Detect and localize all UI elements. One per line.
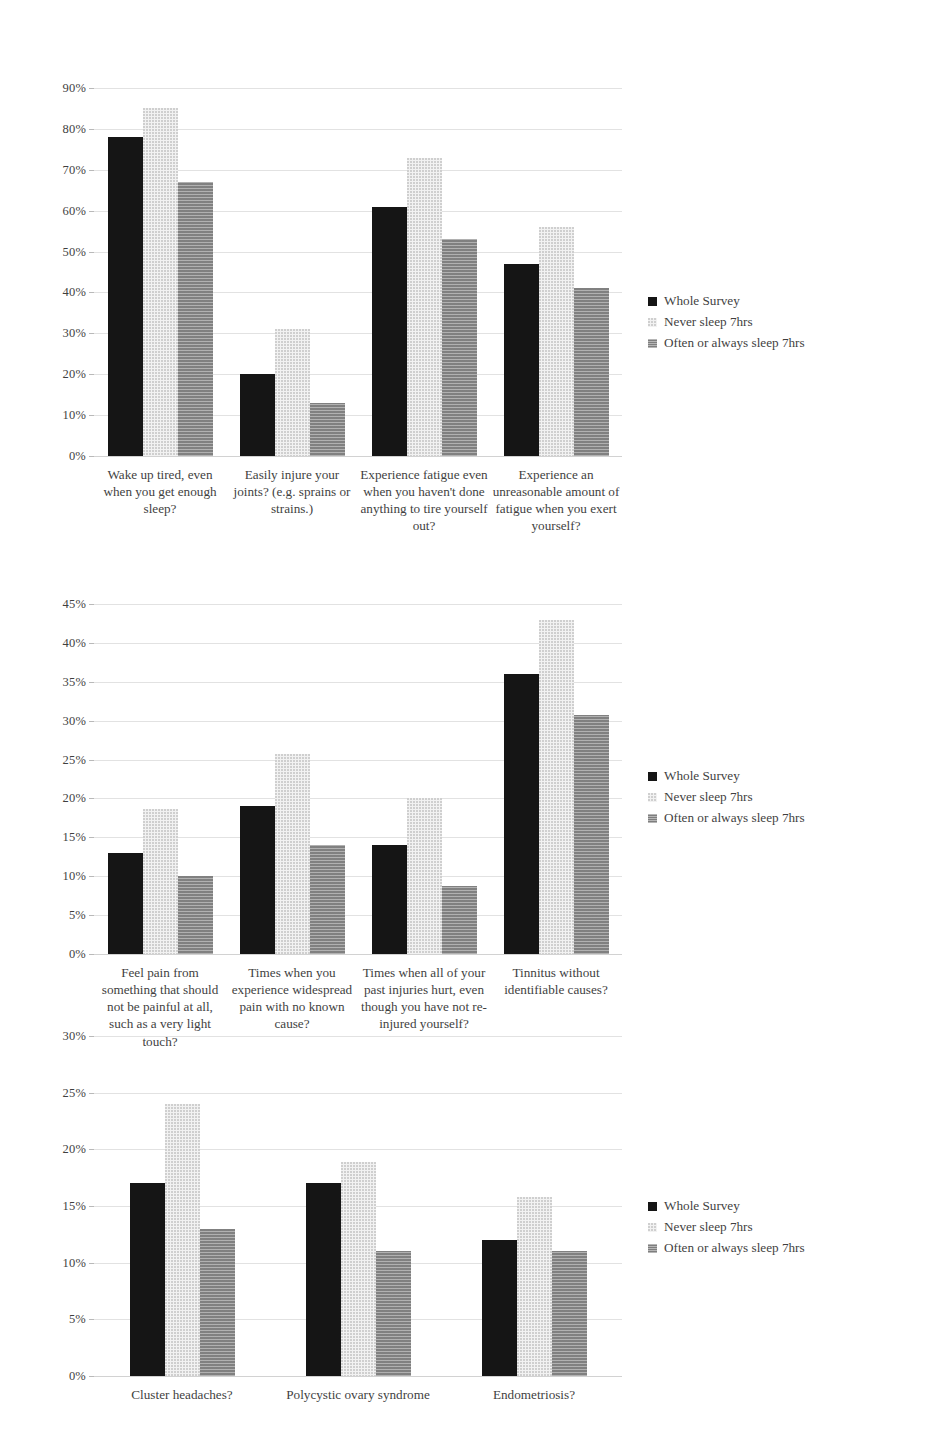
y-tick-label: 45% <box>62 597 86 612</box>
y-tick-label: 10% <box>62 408 86 423</box>
chart-block-1: 0%10%20%30%40%50%60%70%80%90% Wake up ti… <box>0 0 925 590</box>
y-tick-label: 40% <box>62 285 86 300</box>
x-category-label: Endometriosis? <box>446 1386 622 1403</box>
legend-swatch-icon <box>648 297 657 306</box>
bar-1[interactable] <box>539 227 574 456</box>
bar-group <box>270 1036 446 1376</box>
bar-0[interactable] <box>504 264 539 456</box>
bar-2[interactable] <box>178 876 213 954</box>
legend-label: Never sleep 7hrs <box>664 1219 753 1235</box>
bar-0[interactable] <box>372 845 407 954</box>
y-tick-label: 5% <box>69 908 86 923</box>
legend-swatch-icon <box>648 339 657 348</box>
bar-0[interactable] <box>240 374 275 456</box>
x-axis-labels-1: Wake up tired, even when you get enough … <box>94 466 622 535</box>
bar-2[interactable] <box>376 1251 411 1376</box>
y-tick-label: 80% <box>62 121 86 136</box>
bar-group <box>358 604 490 954</box>
legend-label: Never sleep 7hrs <box>664 314 753 330</box>
chart-block-2: 0%5%10%15%20%25%30%35%40%45% Feel pain f… <box>0 590 925 1030</box>
bar-2[interactable] <box>200 1229 235 1376</box>
legend-entry[interactable]: Often or always sleep 7hrs <box>648 1240 805 1256</box>
y-tick-label: 30% <box>62 1029 86 1044</box>
legend-entry[interactable]: Whole Survey <box>648 768 805 784</box>
bar-group <box>446 1036 622 1376</box>
bar-0[interactable] <box>240 806 275 954</box>
bar-0[interactable] <box>130 1183 165 1376</box>
x-category-label: Experience an unreasonable amount of fat… <box>490 466 622 535</box>
bar-1[interactable] <box>341 1162 376 1376</box>
legend-entry[interactable]: Never sleep 7hrs <box>648 789 805 805</box>
bar-0[interactable] <box>306 1183 341 1376</box>
x-category-label: Wake up tired, even when you get enough … <box>94 466 226 535</box>
y-tick-label: 20% <box>62 367 86 382</box>
y-tick-label: 25% <box>62 752 86 767</box>
legend-label: Whole Survey <box>664 768 740 784</box>
bar-1[interactable] <box>275 754 310 954</box>
bar-1[interactable] <box>539 620 574 954</box>
y-tick-label: 20% <box>62 1142 86 1157</box>
x-axis-labels-3: Cluster headaches?Polycystic ovary syndr… <box>94 1386 622 1403</box>
plot-area-1 <box>94 88 622 456</box>
bar-0[interactable] <box>108 853 143 954</box>
bar-1[interactable] <box>275 329 310 456</box>
bar-2[interactable] <box>442 886 477 954</box>
legend-label: Often or always sleep 7hrs <box>664 335 805 351</box>
bar-set <box>94 604 226 954</box>
bar-set <box>446 1036 622 1376</box>
bar-set <box>358 88 490 456</box>
bar-set <box>226 88 358 456</box>
legend-3: Whole SurveyNever sleep 7hrsOften or alw… <box>648 1198 805 1261</box>
bar-2[interactable] <box>574 288 609 456</box>
legend-entry[interactable]: Whole Survey <box>648 293 805 309</box>
legend-label: Never sleep 7hrs <box>664 789 753 805</box>
bar-1[interactable] <box>143 809 178 954</box>
y-tick-label: 10% <box>62 869 86 884</box>
x-category-label: Experience fatigue even when you haven't… <box>358 466 490 535</box>
legend-entry[interactable]: Never sleep 7hrs <box>648 1219 805 1235</box>
bar-2[interactable] <box>442 239 477 456</box>
bar-0[interactable] <box>504 674 539 954</box>
legend-2: Whole SurveyNever sleep 7hrsOften or alw… <box>648 768 805 831</box>
legend-entry[interactable]: Whole Survey <box>648 1198 805 1214</box>
plot-area-2 <box>94 604 622 954</box>
plot-3: 0%5%10%15%20%25%30% <box>42 1036 622 1376</box>
bar-1[interactable] <box>407 158 442 456</box>
plot-area-3 <box>94 1036 622 1376</box>
bar-set <box>270 1036 446 1376</box>
y-tick-label: 35% <box>62 674 86 689</box>
y-tick-label: 30% <box>62 326 86 341</box>
y-tick-label: 5% <box>69 1312 86 1327</box>
y-axis-2: 0%5%10%15%20%25%30%35%40%45% <box>42 604 94 954</box>
legend-swatch-icon <box>648 814 657 823</box>
bar-2[interactable] <box>574 715 609 954</box>
legend-label: Often or always sleep 7hrs <box>664 810 805 826</box>
bar-1[interactable] <box>143 108 178 456</box>
y-tick-label: 20% <box>62 791 86 806</box>
bar-set <box>490 88 622 456</box>
bar-1[interactable] <box>165 1104 200 1376</box>
x-category-label: Cluster headaches? <box>94 1386 270 1403</box>
legend-entry[interactable]: Often or always sleep 7hrs <box>648 810 805 826</box>
bar-0[interactable] <box>372 207 407 456</box>
bar-2[interactable] <box>178 182 213 456</box>
y-axis-1: 0%10%20%30%40%50%60%70%80%90% <box>42 88 94 456</box>
legend-swatch-icon <box>648 1223 657 1232</box>
legend-swatch-icon <box>648 772 657 781</box>
bar-0[interactable] <box>482 1240 517 1376</box>
legend-swatch-icon <box>648 318 657 327</box>
plot-1: 0%10%20%30%40%50%60%70%80%90% <box>42 88 622 456</box>
bar-2[interactable] <box>310 845 345 954</box>
bar-2[interactable] <box>310 403 345 456</box>
legend-entry[interactable]: Never sleep 7hrs <box>648 314 805 330</box>
legend-entry[interactable]: Often or always sleep 7hrs <box>648 335 805 351</box>
bar-0[interactable] <box>108 137 143 456</box>
bar-1[interactable] <box>407 798 442 954</box>
legend-label: Whole Survey <box>664 1198 740 1214</box>
bar-2[interactable] <box>552 1251 587 1376</box>
y-tick-label: 30% <box>62 713 86 728</box>
gridline <box>94 954 622 955</box>
y-tick-label: 0% <box>69 1369 86 1384</box>
bar-group <box>94 1036 270 1376</box>
bar-1[interactable] <box>517 1197 552 1376</box>
